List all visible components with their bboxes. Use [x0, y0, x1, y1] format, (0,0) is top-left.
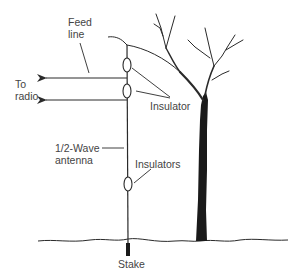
antenna-diagram: Feed line To radio Insulator 1/2-Wave an… — [0, 0, 302, 279]
insulators-label: Insulators — [135, 158, 181, 170]
insulator-leader-2 — [136, 91, 170, 98]
half-wave-label-line2: antenna — [55, 154, 100, 166]
insulator-2 — [123, 84, 131, 98]
feed-line-label-line2: line — [68, 28, 92, 40]
insulator-3 — [124, 177, 132, 191]
to-radio-label: To radio — [15, 78, 38, 102]
tree-branches — [154, 14, 243, 100]
feed-line-leader — [80, 43, 89, 73]
diagram-canvas — [0, 0, 302, 279]
insulator-leader-1 — [132, 68, 170, 97]
insulators-leader — [134, 169, 151, 183]
stake — [126, 243, 130, 256]
insulator-label: Insulator — [150, 100, 190, 112]
to-radio-label-line2: radio — [15, 90, 38, 102]
half-wave-antenna-label: 1/2-Wave antenna — [55, 142, 100, 166]
feed-line-label-line1: Feed — [68, 16, 92, 28]
to-radio-label-line1: To — [15, 78, 38, 90]
feed-line-label: Feed line — [68, 16, 92, 40]
stake-label: Stake — [118, 258, 145, 270]
half-wave-label-line1: 1/2-Wave — [55, 142, 100, 154]
insulator-1 — [123, 58, 131, 72]
ground-line — [38, 239, 288, 242]
antenna-element — [127, 45, 128, 243]
tree-trunk — [196, 92, 208, 241]
